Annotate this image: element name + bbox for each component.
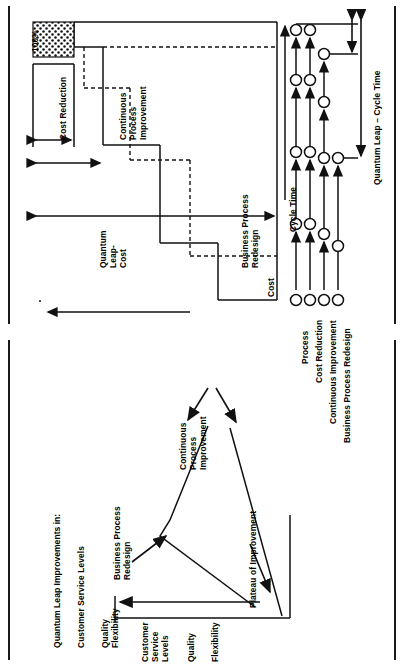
cycle-time-node-diagram [282, 0, 406, 330]
page-rule-bottom [8, 340, 10, 660]
label-business-process-redesign-line: Business Process Redesign [112, 506, 132, 580]
arrow-cpi-right [216, 388, 236, 422]
page-rule-right-bottom [394, 340, 396, 660]
improvement-list-item-0: Customer Service Levels [76, 546, 86, 648]
label-cost-axis: Cost [266, 278, 276, 297]
axis-label-flexibility: Flexibility [210, 622, 220, 662]
improvement-line-chart [20, 340, 370, 666]
scanned-page: 100% Cost Reduction Quantum Leap- Cost C… [0, 0, 406, 666]
cost-staircase-chart [0, 0, 300, 330]
axis-label-quality: Quality [186, 633, 196, 662]
label-quantum-leap-cost: Quantum Leap- Cost [98, 231, 128, 268]
arrow-bpr [132, 536, 166, 562]
improvement-heading: Quantum Leap Improvements in: [52, 514, 62, 648]
label-cost-reduction: Cost Reduction [58, 77, 68, 140]
label-continuous-process-improvement-cost: Continuous Process Improvement [118, 86, 148, 140]
label-business-process-redesign-cost: Business Process Redesign [240, 194, 260, 268]
label-continuous-process-improvement-line: Continuous Process Improvement [178, 416, 208, 470]
label-cycle-time-axis: Cycle Time [288, 187, 298, 232]
label-100-percent: 100% [30, 30, 40, 52]
improvement-list-item-1: Quality [100, 619, 110, 648]
improvement-list-item-2: Flexibility [110, 608, 120, 648]
axis-label-customer-service-levels: Customer Service Levels [140, 622, 170, 662]
label-plateau-of-improvement: Plateau of Improvement [248, 511, 258, 608]
label-quantum-leap-cycle-time: Quantum Leap – Cycle Time [372, 70, 382, 185]
